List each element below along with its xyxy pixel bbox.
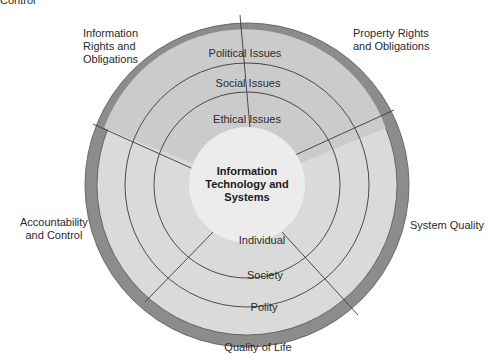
info-rights-line-3: Obligations: [83, 53, 138, 66]
label-quality-of-life: Quality of Life: [224, 341, 291, 354]
label-accountability: Accountability and Control: [20, 216, 88, 242]
info-rights-line-2: Rights and: [83, 40, 138, 53]
label-information-rights: Information Rights and Obligations: [83, 27, 138, 66]
label-society: Society: [247, 269, 283, 282]
label-system-quality: System Quality: [410, 219, 484, 232]
info-rights-line-1: Information: [83, 27, 138, 40]
fragment-label: Control: [0, 0, 35, 7]
label-property-rights: Property Rights and Obligations: [353, 27, 429, 53]
center-label: Information Technology and Systems: [205, 165, 289, 204]
property-rights-line-1: Property Rights: [353, 27, 429, 40]
label-political-issues: Political Issues: [209, 47, 282, 60]
center-line-3: Systems: [205, 191, 289, 204]
accountability-line-1: Accountability: [20, 216, 88, 229]
accountability-line-2: and Control: [20, 229, 88, 242]
label-social-issues: Social Issues: [216, 77, 281, 90]
label-ethical-issues: Ethical Issues: [213, 113, 281, 126]
property-rights-line-2: and Obligations: [353, 40, 429, 53]
center-line-2: Technology and: [205, 178, 289, 191]
label-individual: Individual: [239, 234, 285, 247]
label-polity: Polity: [251, 301, 278, 314]
center-line-1: Information: [205, 165, 289, 178]
